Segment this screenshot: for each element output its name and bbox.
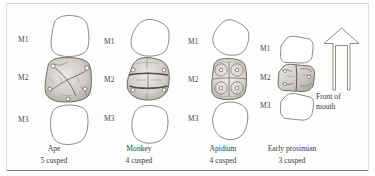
tooth-ape-m3	[46, 104, 92, 146]
up-arrow-icon	[322, 26, 362, 92]
molar-label-m2-prosimian: M2	[260, 73, 271, 82]
tooth-ape-m2-detail	[42, 56, 96, 104]
molar-label-m2-monkey: M2	[104, 75, 115, 84]
front-of-mouth-arrow	[322, 26, 362, 92]
molar-label-m1-prosimian: M1	[260, 44, 271, 53]
tooth-apidium-m2-detail	[208, 57, 252, 101]
molar-label-m1-monkey: M1	[104, 37, 115, 46]
cusp-count-monkey: 4 cusped	[96, 156, 182, 165]
tooth-apidium-m3	[210, 100, 252, 142]
cusp-count-early-prosimian: 3 cusped	[246, 156, 338, 165]
molar-label-m2-apidium: M2	[188, 75, 199, 84]
tooth-apidium-m1	[210, 18, 252, 58]
front-of-mouth-line1: Front of	[316, 92, 372, 102]
front-of-mouth-line2: mouth	[316, 102, 372, 112]
molar-label-m3-monkey: M3	[104, 114, 115, 123]
tooth-comparison-figure: M1 M2 M3	[0, 0, 375, 176]
column-ape: M1 M2 M3	[8, 0, 100, 176]
tooth-monkey-m1	[128, 18, 172, 58]
tooth-prosimian-m2-detail	[276, 63, 318, 93]
cusp-count-ape: 5 cusped	[8, 156, 100, 165]
tooth-prosimian-m3	[278, 92, 316, 122]
caption-ape: Ape	[8, 144, 100, 155]
caption-monkey: Monkey	[96, 144, 182, 155]
figure-border-left	[6, 3, 7, 171]
tooth-prosimian-m1	[278, 35, 316, 65]
front-of-mouth-label: Front of mouth	[316, 92, 372, 112]
molar-label-m1-ape: M1	[18, 35, 29, 44]
molar-label-m2-ape: M2	[18, 73, 29, 82]
column-monkey: M1 M2 M3	[96, 0, 182, 176]
molar-label-m3-ape: M3	[18, 115, 29, 124]
molar-label-m1-apidium: M1	[188, 37, 199, 46]
molar-label-m3-prosimian: M3	[260, 101, 271, 110]
tooth-monkey-m2-detail	[124, 56, 174, 102]
molar-label-m3-apidium: M3	[188, 114, 199, 123]
figure-border-right	[368, 3, 369, 171]
tooth-monkey-m3	[128, 104, 172, 144]
column-early-prosimian: M1 M2 M3	[258, 0, 324, 176]
tooth-ape-m1	[46, 14, 92, 58]
caption-early-prosimian: Early prosimian	[246, 144, 338, 155]
